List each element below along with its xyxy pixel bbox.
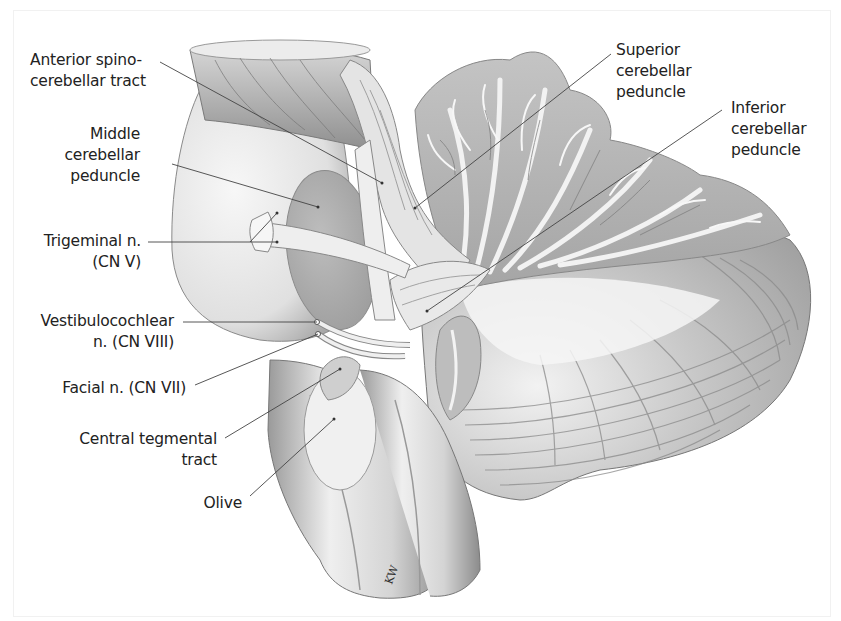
label-line: cerebellar [616, 61, 692, 82]
label-inferior-cerebellar-peduncle: Inferior cerebellar peduncle [731, 98, 807, 161]
label-facial-nerve: Facial n. (CN VII) [62, 378, 186, 399]
label-anterior-spinocerebellar-tract: Anterior spino- cerebellar tract [30, 50, 146, 92]
label-line: Olive [203, 493, 242, 514]
label-line: Vestibulocochlear [40, 311, 174, 332]
label-line: Facial n. (CN VII) [62, 378, 186, 399]
cn-vii-viii-nerves [315, 320, 411, 357]
label-line: peduncle [731, 140, 807, 161]
label-line: n. (CN VIII) [40, 332, 174, 353]
label-trigeminal-nerve: Trigeminal n. (CN V) [44, 231, 141, 273]
label-line: peduncle [616, 82, 692, 103]
label-line: Trigeminal n. [44, 231, 141, 252]
label-line: Superior [616, 40, 692, 61]
label-line: peduncle [65, 166, 141, 187]
label-line: cerebellar [65, 145, 141, 166]
label-line: (CN V) [44, 252, 141, 273]
label-vestibulocochlear-nerve: Vestibulocochlear n. (CN VIII) [40, 311, 174, 353]
label-central-tegmental-tract: Central tegmental tract [79, 429, 217, 471]
label-olive: Olive [203, 493, 242, 514]
label-line: tract [79, 450, 217, 471]
label-line: cerebellar tract [30, 71, 146, 92]
label-line: cerebellar [731, 119, 807, 140]
label-line: Middle [65, 124, 141, 145]
label-superior-cerebellar-peduncle: Superior cerebellar peduncle [616, 40, 692, 103]
label-line: Central tegmental [79, 429, 217, 450]
label-line: Inferior [731, 98, 807, 119]
label-line: Anterior spino- [30, 50, 146, 71]
label-middle-cerebellar-peduncle: Middle cerebellar peduncle [65, 124, 141, 187]
